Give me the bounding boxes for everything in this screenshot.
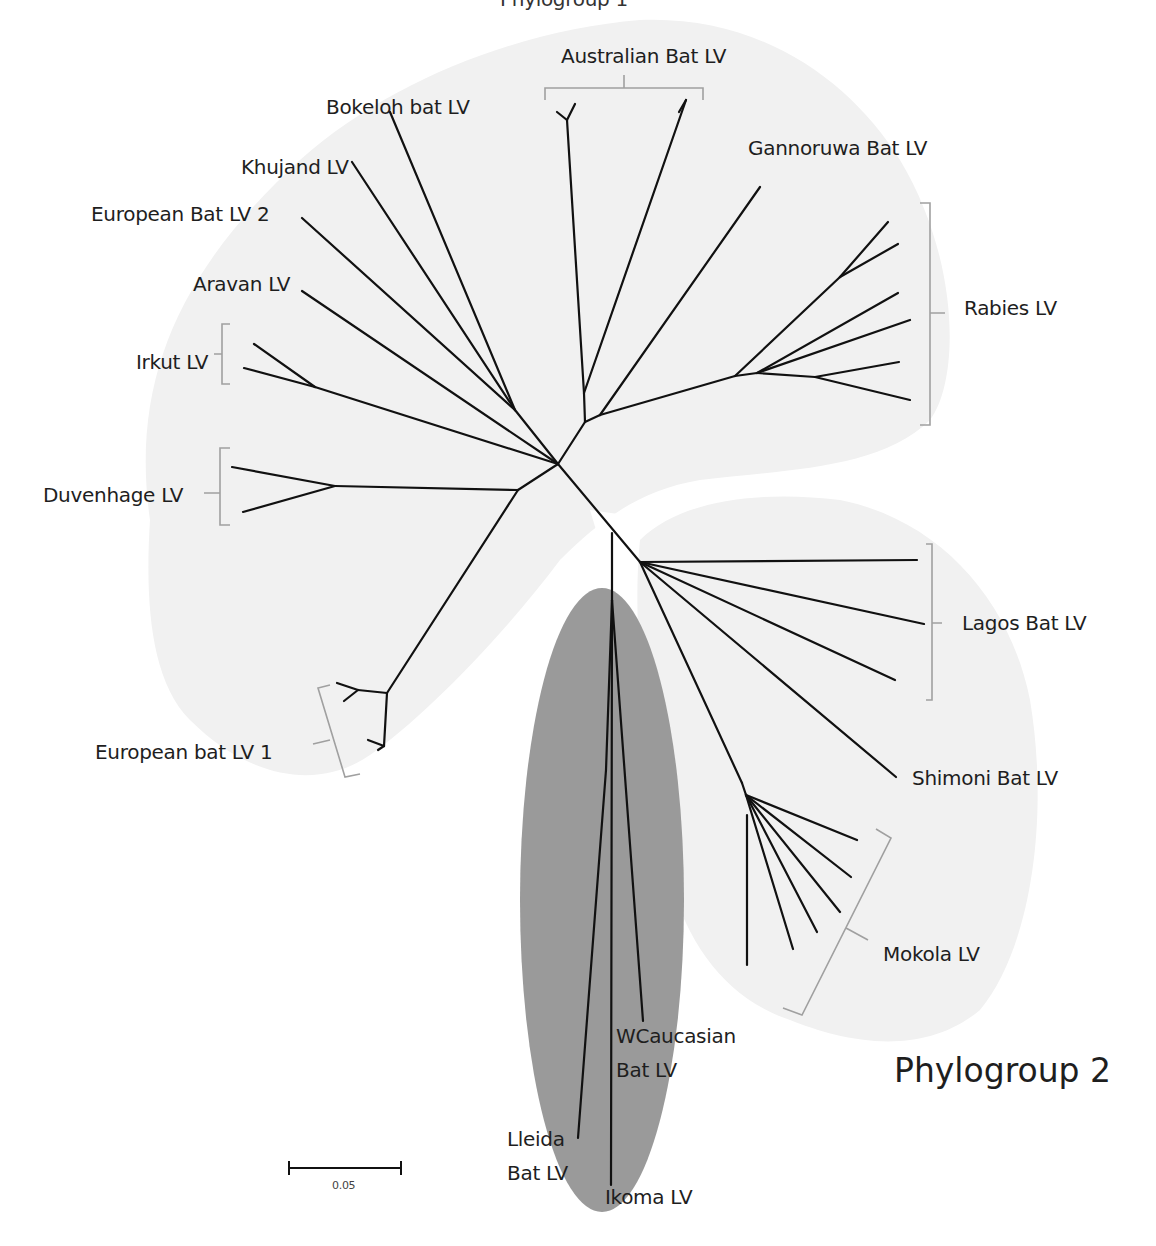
phylogroup-3-region xyxy=(520,588,684,1212)
label-australian-bat-lv: Australian Bat LV xyxy=(561,45,726,67)
label-aravan-lv: Aravan LV xyxy=(193,273,290,295)
scale-bar-value: 0.05 xyxy=(332,1180,355,1192)
tree-branch xyxy=(584,393,585,422)
label-lleida-line2: Bat LV xyxy=(507,1162,568,1184)
label-bokeloh-bat-lv: Bokeloh bat LV xyxy=(326,96,470,118)
tree-branch xyxy=(611,600,612,1185)
label-lagos-bat-lv: Lagos Bat LV xyxy=(962,612,1086,634)
label-irkut-lv: Irkut LV xyxy=(136,351,208,373)
label-mokola-lv: Mokola LV xyxy=(883,943,980,965)
label-duvenhage-lv: Duvenhage LV xyxy=(43,484,183,506)
label-wcaucasian-line2: Bat LV xyxy=(616,1059,677,1081)
label-shimoni-bat-lv: Shimoni Bat LV xyxy=(912,767,1058,789)
label-gannoruwa-bat-lv: Gannoruwa Bat LV xyxy=(748,137,927,159)
label-lleida-line1: Lleida xyxy=(507,1128,565,1150)
label-phylogroup-2: Phylogroup 2 xyxy=(894,1052,1111,1090)
label-european-bat-lv-2: European Bat LV 2 xyxy=(91,203,269,225)
label-ikoma-lv: Ikoma LV xyxy=(605,1186,692,1208)
label-rabies-lv: Rabies LV xyxy=(964,297,1057,319)
label-european-bat-lv-1: European bat LV 1 xyxy=(95,741,272,763)
label-wcaucasian-line1: WCaucasian xyxy=(616,1025,736,1047)
label-khujand-lv: Khujand LV xyxy=(241,156,349,178)
phylogroup-1-title: Phylogroup 1 xyxy=(500,0,628,10)
scale-bar xyxy=(289,1161,401,1175)
